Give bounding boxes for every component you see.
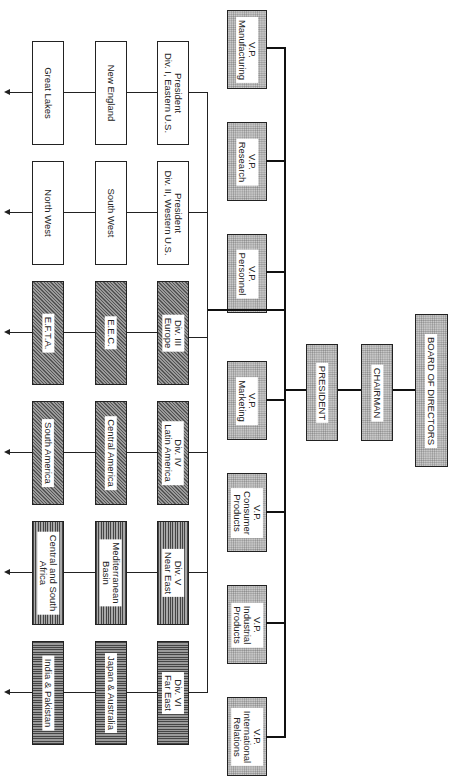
region-central-america-label: Central America bbox=[105, 416, 117, 490]
region-north-west-label: North West bbox=[42, 186, 54, 239]
vp-marketing-label: V.P. Marketing bbox=[236, 377, 258, 425]
connector-division-6 bbox=[188, 692, 207, 693]
division-5-label: Div. V Near East bbox=[162, 549, 184, 597]
vp-consumer-products-box: V.P. Consumer Products bbox=[227, 473, 267, 552]
region-south-west-box: South West bbox=[95, 161, 127, 265]
division-4-label: Div. IV Latin America bbox=[162, 421, 184, 485]
vp-research-box: V.P. Research bbox=[227, 122, 267, 201]
vp-spine bbox=[284, 47, 286, 738]
president-box: PRESIDENT bbox=[306, 344, 338, 441]
connector-div2-region-b bbox=[63, 212, 95, 213]
region-india-pakistan-label: India & Pakistan bbox=[42, 656, 54, 731]
connector-vp-marketing bbox=[266, 399, 285, 401]
arrow-left-icon bbox=[4, 209, 10, 215]
connector-division-1 bbox=[188, 92, 207, 93]
connector-vp-consumer-products bbox=[266, 511, 285, 513]
division-6-box: Div. VI Far East bbox=[157, 641, 189, 745]
arrow-line-6 bbox=[9, 692, 32, 693]
board-of-directors-label: BOARD OF DIRECTORS bbox=[426, 333, 438, 447]
region-great-lakes-box: Great Lakes bbox=[32, 41, 64, 145]
region-mediterranean-basin-box: Mediterranean Basin bbox=[95, 521, 127, 625]
chairman-label: CHAIRMAN bbox=[371, 364, 383, 421]
connector-board-chairman bbox=[392, 389, 415, 391]
connector-vp-personnel bbox=[266, 271, 285, 273]
region-efta-label: E.F.T.A. bbox=[42, 314, 54, 353]
region-north-west-box: North West bbox=[32, 161, 64, 265]
division-1-label: President Div. I, Eastern U.S. bbox=[162, 50, 184, 136]
connector-president-spine bbox=[285, 389, 306, 391]
connector-spine-divisions bbox=[207, 309, 285, 311]
board-of-directors-box: BOARD OF DIRECTORS bbox=[415, 314, 448, 467]
region-japan-australia-box: Japan & Australia bbox=[95, 641, 127, 745]
connector-div1-region-a bbox=[126, 92, 157, 93]
arrow-line-2 bbox=[9, 212, 32, 213]
vp-manufacturing-label: V.P. Manufacturing bbox=[236, 16, 258, 82]
arrow-left-icon bbox=[4, 689, 10, 695]
arrow-line-1 bbox=[9, 92, 32, 93]
arrow-left-icon bbox=[4, 449, 10, 455]
region-great-lakes-label: Great Lakes bbox=[42, 64, 54, 122]
connector-div3-region-b bbox=[63, 332, 95, 333]
connector-division-5 bbox=[188, 572, 207, 573]
arrow-left-icon bbox=[4, 329, 10, 335]
vp-marketing-box: V.P. Marketing bbox=[227, 361, 267, 440]
connector-vp-international-relations bbox=[266, 736, 285, 738]
vp-consumer-products-label: V.P. Consumer Products bbox=[231, 488, 263, 538]
connector-div6-region-a bbox=[126, 692, 157, 693]
region-new-england-label: New England bbox=[105, 62, 117, 125]
connector-div4-region-b bbox=[63, 452, 95, 453]
division-3-label: Div. III Europe bbox=[162, 315, 184, 352]
vp-manufacturing-box: V.P. Manufacturing bbox=[227, 10, 267, 89]
connector-division-2 bbox=[188, 212, 207, 213]
region-eec-label: E.E.C. bbox=[105, 316, 117, 349]
connector-div5-region-a bbox=[126, 572, 157, 573]
vp-international-relations-box: V.P. International Relations bbox=[227, 697, 267, 776]
region-south-west-label: South West bbox=[105, 186, 117, 241]
region-south-america-label: South America bbox=[42, 419, 54, 487]
region-india-pakistan-box: India & Pakistan bbox=[32, 641, 64, 745]
arrow-left-icon bbox=[4, 569, 10, 575]
arrow-line-4 bbox=[9, 452, 32, 453]
region-japan-australia-label: Japan & Australia bbox=[105, 653, 117, 733]
connector-div3-region-a bbox=[126, 332, 157, 333]
arrow-left-icon bbox=[4, 89, 10, 95]
chairman-box: CHAIRMAN bbox=[361, 344, 393, 441]
connector-div2-region-a bbox=[126, 212, 157, 213]
division-spine bbox=[207, 92, 208, 693]
division-4-box: Div. IV Latin America bbox=[157, 401, 189, 505]
arrow-line-3 bbox=[9, 332, 32, 333]
connector-vp-industrial-products bbox=[266, 622, 285, 624]
connector-division-4 bbox=[188, 452, 207, 453]
region-eec-box: E.E.C. bbox=[95, 281, 127, 385]
connector-vp-research bbox=[266, 160, 285, 162]
connector-div6-region-b bbox=[63, 692, 95, 693]
connector-chairman-president bbox=[337, 389, 361, 391]
region-central-south-africa-box: Central and South Africa bbox=[32, 521, 64, 625]
vp-industrial-products-box: V.P. Industrial Products bbox=[227, 585, 267, 664]
division-6-label: Div. VI Far East bbox=[162, 672, 184, 714]
region-new-england-box: New England bbox=[95, 41, 127, 145]
division-2-box: President Div. II, Western U.S. bbox=[157, 161, 189, 265]
vp-industrial-products-label: V.P. Industrial Products bbox=[231, 602, 263, 647]
connector-div4-region-a bbox=[126, 452, 157, 453]
region-central-south-africa-label: Central and South Africa bbox=[37, 532, 59, 615]
arrow-line-5 bbox=[9, 572, 32, 573]
region-central-america-box: Central America bbox=[95, 401, 127, 505]
division-3-box: Div. III Europe bbox=[157, 281, 189, 385]
vp-personnel-label: V.P. Personnel bbox=[236, 249, 258, 298]
connector-division-3 bbox=[188, 337, 207, 338]
connector-div1-region-b bbox=[63, 92, 95, 93]
division-1-box: President Div. I, Eastern U.S. bbox=[157, 41, 189, 145]
vp-international-relations-label: V.P. International Relations bbox=[231, 707, 263, 765]
region-south-america-box: South America bbox=[32, 401, 64, 505]
president-label: PRESIDENT bbox=[316, 362, 328, 422]
vp-research-label: V.P. Research bbox=[236, 138, 258, 185]
connector-div5-region-b bbox=[63, 572, 95, 573]
division-2-label: President Div. II, Western U.S. bbox=[162, 167, 184, 258]
vp-personnel-box: V.P. Personnel bbox=[227, 234, 267, 313]
region-efta-box: E.F.T.A. bbox=[32, 281, 64, 385]
connector-vp-manufacturing bbox=[266, 47, 285, 49]
region-mediterranean-basin-label: Mediterranean Basin bbox=[100, 539, 122, 606]
division-5-box: Div. V Near East bbox=[157, 521, 189, 625]
